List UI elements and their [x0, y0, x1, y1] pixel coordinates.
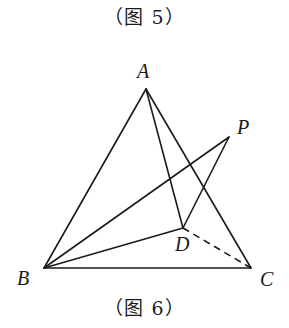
segment-ac: [146, 89, 251, 268]
point-label-p: P: [236, 116, 249, 138]
point-label-c: C: [260, 268, 274, 290]
segment-ab: [44, 89, 146, 268]
point-label-a: A: [135, 60, 150, 82]
figure-6-caption: （图 6）: [0, 293, 289, 320]
segment-bd: [44, 228, 183, 268]
triangle-figure: A B C D P: [0, 0, 289, 328]
segment-pd: [183, 137, 229, 228]
segment-dc: [183, 228, 251, 268]
point-label-b: B: [17, 267, 29, 289]
segments-group: [44, 89, 251, 268]
segment-ad: [146, 89, 183, 228]
point-label-d: D: [174, 233, 190, 255]
point-labels-group: A B C D P: [17, 60, 274, 290]
segment-bp: [44, 137, 229, 268]
